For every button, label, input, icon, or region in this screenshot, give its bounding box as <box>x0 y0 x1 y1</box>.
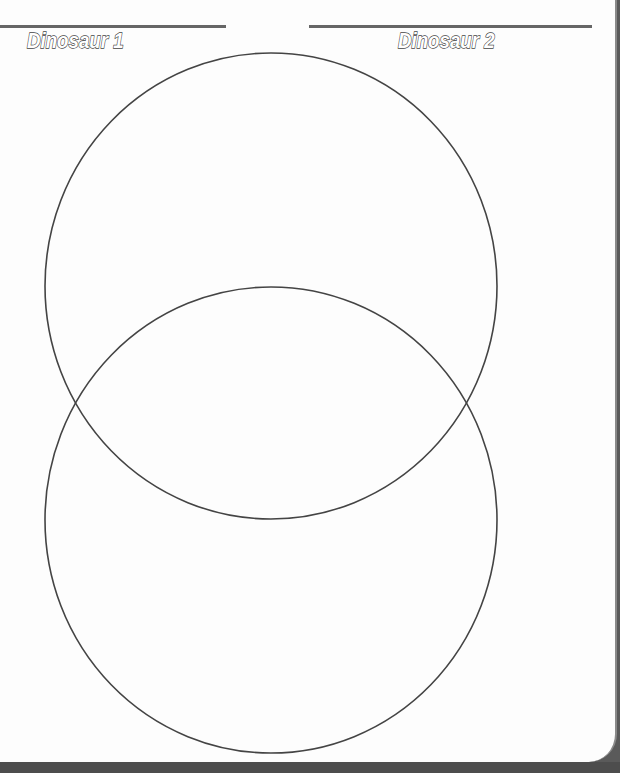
venn-circle-bottom <box>45 287 497 753</box>
venn-circle-top <box>45 53 497 519</box>
background-edge <box>0 762 620 773</box>
venn-diagram <box>0 0 617 762</box>
worksheet-page: Dinosaur 1 Dinosaur 2 <box>0 0 617 762</box>
